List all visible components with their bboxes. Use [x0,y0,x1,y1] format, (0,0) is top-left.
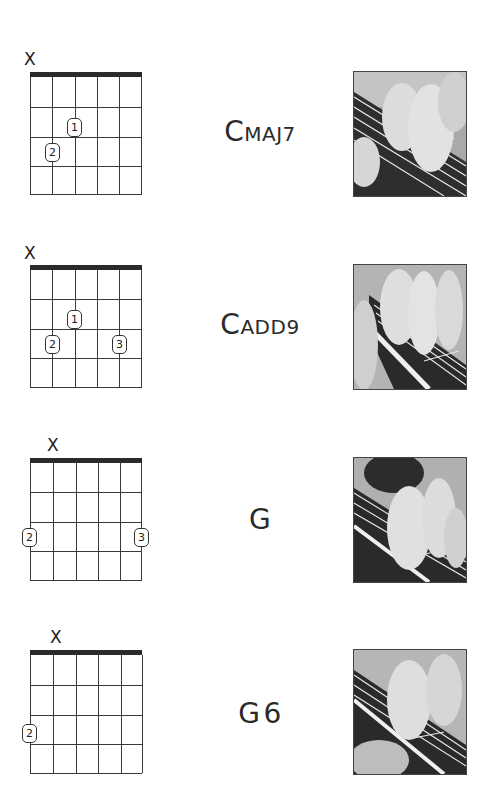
finger-marker: 3 [112,335,127,354]
fretboard-grid [30,655,142,773]
muted-string-marker: X [50,629,62,647]
fretboard-grid [30,270,142,388]
chord-photo-g [353,457,467,583]
chord-row-g6: X 2 G6 [0,0,497,190]
finger-marker: 3 [134,528,149,547]
chord-photo-cadd9 [353,264,467,390]
chord-diagram-g: 2 3 [30,458,142,583]
chord-name-g: G [210,503,310,536]
fretboard-grid [30,463,142,581]
finger-marker: 2 [22,528,37,547]
finger-marker: 1 [67,310,82,329]
chord-photo-g6 [353,649,467,775]
muted-string-marker: X [24,245,36,263]
muted-string-marker: X [47,437,59,455]
chord-diagram-g6: 2 [30,650,142,775]
finger-marker: 2 [45,335,60,354]
chord-diagram-cadd9: 1 2 3 [30,265,142,390]
finger-marker: 2 [22,724,37,743]
chord-name-cadd9: CADD9 [210,308,310,341]
chord-name-g6: G6 [210,697,310,730]
